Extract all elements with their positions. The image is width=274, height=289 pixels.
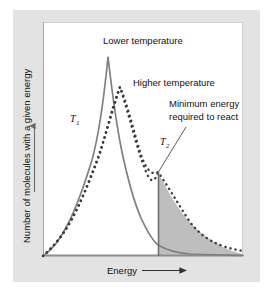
label-minimum-energy-line1: Minimum energy xyxy=(169,98,239,109)
figure-container: Lower temperature Higher temperature Min… xyxy=(0,0,274,289)
y-axis-title: Number of molecules with a given energy xyxy=(21,68,32,243)
label-lower-temperature: Lower temperature xyxy=(103,35,183,46)
label-minimum-energy-line2: required to react xyxy=(169,111,239,122)
plot-svg: Lower temperature Higher temperature Min… xyxy=(0,0,274,289)
label-higher-temperature: Higher temperature xyxy=(133,77,215,88)
curve-higher-temperature xyxy=(43,87,158,256)
label-t2-subscript: 2 xyxy=(166,142,170,150)
shaded-activation-region xyxy=(158,172,243,256)
annotation-leader-line xyxy=(159,127,186,171)
x-axis-title: Energy xyxy=(107,265,137,276)
label-t1-subscript: 1 xyxy=(76,119,80,127)
